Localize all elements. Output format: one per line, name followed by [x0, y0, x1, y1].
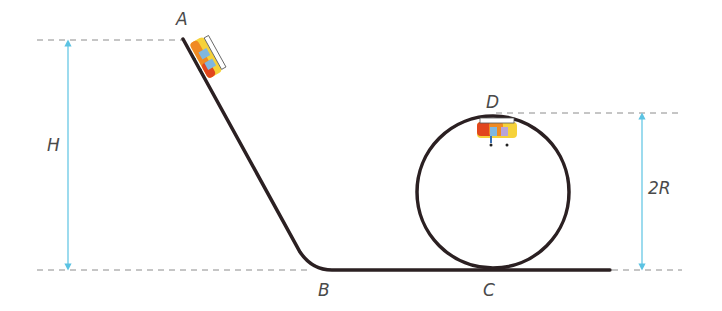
- point-label-D: D: [486, 94, 499, 111]
- cart-at-D-icon: [477, 118, 517, 147]
- slope-and-ground-track: [183, 39, 610, 270]
- point-label-B: B: [318, 282, 330, 299]
- diagram-svg: [0, 0, 722, 311]
- track: [183, 39, 610, 270]
- point-label-C: C: [483, 282, 495, 299]
- point-label-A: A: [176, 11, 188, 28]
- diagram-canvas: A H B C D 2R: [0, 0, 722, 311]
- loop-height-label-2R: 2R: [648, 180, 671, 197]
- loop-track: [417, 116, 569, 268]
- height-label-H: H: [47, 137, 60, 154]
- dashed-reference-lines: [37, 40, 682, 270]
